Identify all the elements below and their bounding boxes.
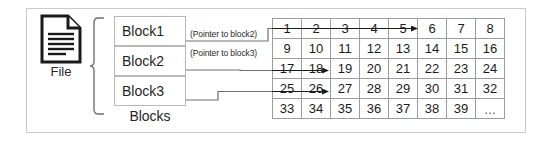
grid-cell[interactable]: 8 <box>476 19 505 39</box>
grid-cell[interactable]: 26 <box>302 79 331 99</box>
grid-cell[interactable]: 25 <box>273 79 302 99</box>
grid-cell[interactable]: 4 <box>360 19 389 39</box>
grid-cell[interactable]: 27 <box>331 79 360 99</box>
block-box-3[interactable]: Block3 <box>114 76 186 106</box>
grid-cell[interactable]: 1 <box>273 19 302 39</box>
grid-cell[interactable]: 9 <box>273 39 302 59</box>
block-label: Block2 <box>122 53 164 69</box>
grid-cell[interactable]: 15 <box>447 39 476 59</box>
file-to-blocks-brace <box>88 16 106 116</box>
block-label: Block3 <box>122 83 164 99</box>
grid-cell[interactable]: 5 <box>389 19 418 39</box>
grid-cell[interactable]: 18 <box>302 59 331 79</box>
grid-cell[interactable]: 36 <box>360 99 389 119</box>
pointer-to-block2-caption: (Pointer to block2) <box>190 29 257 39</box>
grid-cell[interactable]: 3 <box>331 19 360 39</box>
grid-cell[interactable]: 35 <box>331 99 360 119</box>
grid-cell[interactable]: 38 <box>418 99 447 119</box>
grid-cell-ellipsis[interactable]: … <box>476 99 505 119</box>
diagram-canvas: File Block1 Block2 Block3 Blocks (Pointe… <box>0 0 541 143</box>
grid-cell[interactable]: 29 <box>389 79 418 99</box>
grid-cell[interactable]: 30 <box>418 79 447 99</box>
grid-cell[interactable]: 20 <box>360 59 389 79</box>
grid-cell[interactable]: 14 <box>418 39 447 59</box>
grid-cell[interactable]: 17 <box>273 59 302 79</box>
grid-cell[interactable]: 32 <box>476 79 505 99</box>
grid-cell[interactable]: 24 <box>476 59 505 79</box>
document-file-icon <box>38 14 84 64</box>
grid-row: 33 34 35 36 37 38 39 … <box>273 99 505 119</box>
grid-cell[interactable]: 16 <box>476 39 505 59</box>
grid-row: 9 10 11 12 13 14 15 16 <box>273 39 505 59</box>
grid-cell[interactable]: 11 <box>331 39 360 59</box>
grid-cell[interactable]: 28 <box>360 79 389 99</box>
grid-row: 25 26 27 28 29 30 31 32 <box>273 79 505 99</box>
blocks-group-label: Blocks <box>110 108 190 124</box>
grid-row: 1 2 3 4 5 6 7 8 <box>273 19 505 39</box>
grid-cell[interactable]: 39 <box>447 99 476 119</box>
grid-cell[interactable]: 22 <box>418 59 447 79</box>
file-label: File <box>30 64 92 79</box>
grid-cell[interactable]: 21 <box>389 59 418 79</box>
block-box-1[interactable]: Block1 <box>114 16 186 46</box>
block-label: Block1 <box>122 23 164 39</box>
grid-cell[interactable]: 6 <box>418 19 447 39</box>
grid-cell[interactable]: 19 <box>331 59 360 79</box>
grid-cell[interactable]: 12 <box>360 39 389 59</box>
grid-cell[interactable]: 13 <box>389 39 418 59</box>
grid-row: 17 18 19 20 21 22 23 24 <box>273 59 505 79</box>
grid-cell[interactable]: 31 <box>447 79 476 99</box>
grid-cell[interactable]: 34 <box>302 99 331 119</box>
block-box-2[interactable]: Block2 <box>114 46 186 76</box>
pointer-to-block3-caption: (Pointer to block3) <box>190 48 257 58</box>
disk-block-grid: 1 2 3 4 5 6 7 8 9 10 11 12 13 14 15 16 1… <box>272 18 505 119</box>
grid-cell[interactable]: 37 <box>389 99 418 119</box>
grid-cell[interactable]: 33 <box>273 99 302 119</box>
grid-cell[interactable]: 10 <box>302 39 331 59</box>
grid-cell[interactable]: 23 <box>447 59 476 79</box>
grid-cell[interactable]: 7 <box>447 19 476 39</box>
grid-cell[interactable]: 2 <box>302 19 331 39</box>
